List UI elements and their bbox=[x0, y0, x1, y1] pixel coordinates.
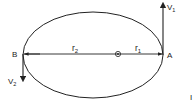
r2-label: r2 bbox=[72, 43, 79, 54]
v1-label: V1 bbox=[167, 3, 175, 13]
v2-sub: 2 bbox=[13, 81, 16, 87]
r2-sub: 2 bbox=[75, 48, 79, 54]
r1-label: r1 bbox=[135, 43, 142, 54]
v2-label: V2 bbox=[8, 77, 16, 87]
point-b-label: B bbox=[12, 50, 17, 59]
orbit-diagram: A B r2 r1 V1 V2 I bbox=[0, 0, 194, 103]
r1-sub: 1 bbox=[138, 48, 142, 54]
point-a-label: A bbox=[167, 51, 173, 60]
v1-sub: 1 bbox=[172, 7, 175, 13]
orbit-ellipse bbox=[23, 12, 163, 98]
edge-mark: I bbox=[190, 93, 192, 102]
